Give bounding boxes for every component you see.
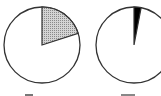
label-left-partial bbox=[25, 94, 33, 96]
pie-outline bbox=[96, 7, 161, 83]
pie-charts bbox=[0, 0, 161, 96]
label-right-partial bbox=[121, 94, 135, 96]
pie-chart-right bbox=[96, 7, 161, 83]
pie-chart-left bbox=[4, 7, 80, 83]
